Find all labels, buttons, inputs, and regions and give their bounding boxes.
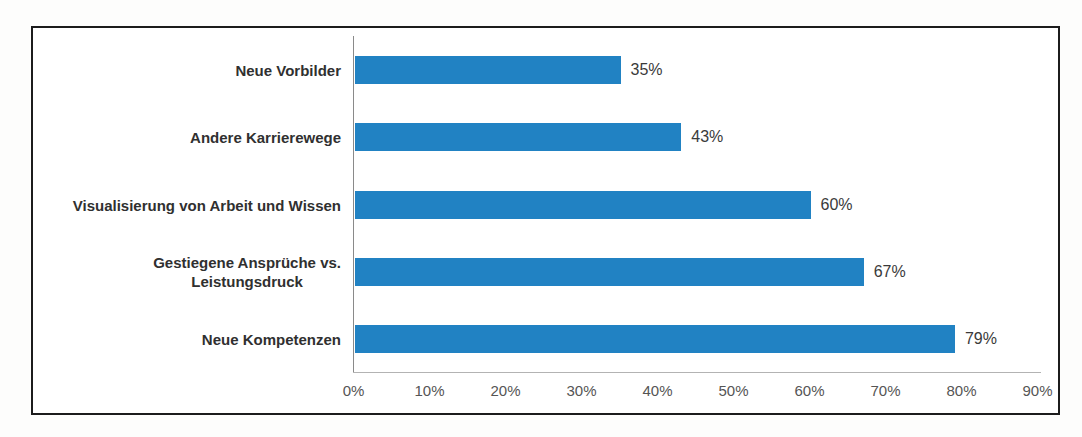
value-label-visualisierung-von-arbeit-und-wissen: 60% — [821, 196, 853, 214]
x-tick-label-30: 30% — [566, 382, 596, 399]
category-label-neue-kompetenzen: Neue Kompetenzen — [202, 330, 341, 349]
category-label-neue-vorbilder: Neue Vorbilder — [235, 60, 341, 79]
x-tick-label-20: 20% — [490, 382, 520, 399]
x-tick-label-60: 60% — [794, 382, 824, 399]
bar-andere-karrierewege — [355, 123, 682, 151]
category-label-visualisierung-von-arbeit-und-wissen: Visualisierung von Arbeit und Wissen — [73, 195, 341, 214]
chart-frame — [31, 26, 1060, 415]
x-tick-label-80: 80% — [946, 382, 976, 399]
category-label-line: Visualisierung von Arbeit und Wissen — [73, 195, 341, 214]
value-label-neue-vorbilder: 35% — [631, 61, 663, 79]
bar-chart: Neue VorbilderAndere KarrierewegeVisuali… — [0, 0, 1082, 437]
x-tick-label-50: 50% — [718, 382, 748, 399]
category-label-line: Leistungsdruck — [153, 272, 341, 291]
x-tick-label-0: 0% — [343, 382, 365, 399]
x-tick-label-70: 70% — [870, 382, 900, 399]
x-tick-label-40: 40% — [642, 382, 672, 399]
value-label-andere-karrierewege: 43% — [691, 128, 723, 146]
category-label-line: Neue Vorbilder — [235, 60, 341, 79]
category-label-line: Neue Kompetenzen — [202, 330, 341, 349]
x-tick-label-10: 10% — [414, 382, 444, 399]
bar-neue-vorbilder — [355, 56, 621, 84]
x-axis-line — [353, 372, 1041, 373]
bar-gestiegene-anspr-che-vs-leistungsdruck — [355, 258, 864, 286]
category-label-line: Gestiegene Ansprüche vs. — [153, 253, 341, 272]
category-label-gestiegene-anspr-che-vs-leistungsdruck: Gestiegene Ansprüche vs.Leistungsdruck — [153, 253, 341, 291]
bar-visualisierung-von-arbeit-und-wissen — [355, 191, 811, 219]
value-label-neue-kompetenzen: 79% — [965, 330, 997, 348]
bar-neue-kompetenzen — [355, 325, 955, 353]
x-tick-label-90: 90% — [1022, 382, 1052, 399]
value-label-gestiegene-anspr-che-vs-leistungsdruck: 67% — [874, 263, 906, 281]
category-label-line: Andere Karrierewege — [190, 128, 341, 147]
category-label-andere-karrierewege: Andere Karrierewege — [190, 128, 341, 147]
